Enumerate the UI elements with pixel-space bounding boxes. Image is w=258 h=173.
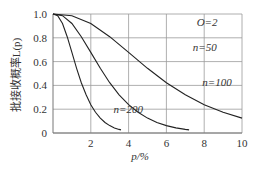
y-tick-labels: 00.20.40.60.81.0 [33, 8, 47, 139]
y-tick-label: 0.4 [33, 79, 47, 91]
grid [53, 14, 242, 133]
curve-n-200 [53, 14, 121, 130]
x-tick-label: 6 [164, 137, 170, 149]
x-tick-label: 2 [88, 137, 94, 149]
curve-labels: O=2n=50n=100n=200 [113, 16, 232, 115]
y-tick-label: 1.0 [33, 8, 47, 20]
x-tick-label: 4 [126, 137, 132, 149]
axes [53, 14, 242, 133]
curve-label: n=50 [193, 41, 217, 53]
x-tick-label: 8 [201, 137, 207, 149]
y-tick-label: 0.8 [33, 32, 47, 44]
oc-curve-chart: 246810 00.20.40.60.81.0 O=2n=50n=100n=20… [0, 0, 258, 173]
x-tick-label: 10 [237, 137, 249, 149]
x-axis-label: p/% [130, 150, 149, 162]
curve-label: n=200 [113, 103, 143, 115]
y-tick-label: 0.2 [33, 103, 47, 115]
x-tick-labels: 246810 [88, 137, 248, 149]
y-tick-label: 0 [42, 127, 48, 139]
curve-label: O=2 [197, 16, 218, 28]
y-tick-label: 0.6 [33, 56, 47, 68]
curve-label: n=100 [202, 76, 232, 88]
y-axis-label: 批接收概率L(p) [9, 37, 23, 112]
curves [53, 14, 242, 130]
curve-n-50 [53, 14, 242, 118]
